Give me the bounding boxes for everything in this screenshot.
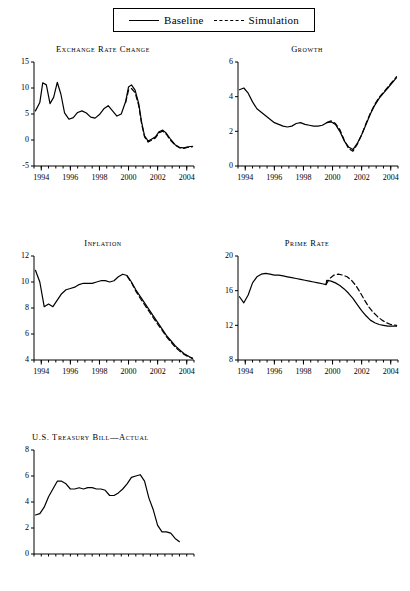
svg-text:16: 16 <box>225 286 233 295</box>
svg-text:2000: 2000 <box>325 173 341 182</box>
svg-text:0: 0 <box>25 135 29 144</box>
svg-text:5: 5 <box>25 109 29 118</box>
svg-text:1998: 1998 <box>91 173 107 182</box>
svg-text:6: 6 <box>25 329 29 338</box>
plot-us-treasury-bill-actual: 02468 <box>8 446 198 578</box>
svg-text:2004: 2004 <box>383 367 399 376</box>
svg-text:2004: 2004 <box>383 173 399 182</box>
svg-text:8: 8 <box>229 355 233 364</box>
panel-title-exchange-rate-change: Exchange Rate Change <box>8 44 198 54</box>
plot-inflation: 4681012199419961998200020022004 <box>8 252 198 384</box>
plot-prime-rate: 8121620199419961998200020022004 <box>212 252 402 384</box>
legend: Baseline Simulation <box>113 8 315 32</box>
panel-growth: Growth 0246199419961998200020022004 <box>212 44 402 194</box>
svg-text:6: 6 <box>229 57 233 66</box>
panel-exchange-rate-change: Exchange Rate Change -505101519941996199… <box>8 44 198 194</box>
svg-text:0: 0 <box>25 549 29 558</box>
panel-title-growth: Growth <box>212 44 402 54</box>
svg-text:12: 12 <box>21 251 29 260</box>
svg-text:8: 8 <box>25 303 29 312</box>
panel-title-inflation: Inflation <box>8 238 198 248</box>
svg-text:2004: 2004 <box>179 367 195 376</box>
svg-text:20: 20 <box>225 251 233 260</box>
panel-inflation: Inflation 468101219941996199820002002200… <box>8 238 198 388</box>
svg-text:4: 4 <box>229 92 233 101</box>
panel-us-treasury-bill-actual: U.S. Treasury Bill—Actual 02468 <box>8 432 198 591</box>
svg-text:1998: 1998 <box>295 173 311 182</box>
legend-entry-simulation: Simulation <box>214 14 299 26</box>
legend-swatch-solid <box>129 20 159 21</box>
figure-root: Baseline Simulation Exchange Rate Change… <box>0 0 410 591</box>
legend-label-simulation: Simulation <box>249 14 299 26</box>
svg-text:1998: 1998 <box>91 367 107 376</box>
svg-text:1996: 1996 <box>62 173 78 182</box>
svg-text:2004: 2004 <box>179 173 195 182</box>
panel-title-prime-rate: Prime Rate <box>212 238 402 248</box>
svg-text:10: 10 <box>21 83 29 92</box>
svg-text:-5: -5 <box>22 161 29 170</box>
svg-text:1994: 1994 <box>33 173 49 182</box>
svg-text:2002: 2002 <box>150 173 166 182</box>
legend-swatch-dashed <box>214 20 244 21</box>
svg-text:12: 12 <box>225 321 233 330</box>
svg-text:6: 6 <box>25 471 29 480</box>
svg-text:2: 2 <box>229 127 233 136</box>
svg-text:4: 4 <box>25 497 29 506</box>
svg-text:2002: 2002 <box>150 367 166 376</box>
svg-text:1996: 1996 <box>62 367 78 376</box>
svg-text:2002: 2002 <box>354 367 370 376</box>
svg-text:2: 2 <box>25 523 29 532</box>
svg-text:2000: 2000 <box>121 367 137 376</box>
svg-text:1996: 1996 <box>266 173 282 182</box>
svg-text:8: 8 <box>25 445 29 454</box>
svg-text:1994: 1994 <box>33 367 49 376</box>
svg-text:1996: 1996 <box>266 367 282 376</box>
plot-exchange-rate-change: -5051015199419961998200020022004 <box>8 58 198 190</box>
svg-text:1998: 1998 <box>295 367 311 376</box>
svg-text:4: 4 <box>25 355 29 364</box>
svg-text:0: 0 <box>229 161 233 170</box>
panel-prime-rate: Prime Rate 81216201994199619982000200220… <box>212 238 402 388</box>
legend-entry-baseline: Baseline <box>129 14 203 26</box>
legend-label-baseline: Baseline <box>164 14 203 26</box>
svg-text:2000: 2000 <box>325 367 341 376</box>
svg-text:1994: 1994 <box>237 173 253 182</box>
svg-text:2000: 2000 <box>121 173 137 182</box>
svg-text:10: 10 <box>21 277 29 286</box>
plot-growth: 0246199419961998200020022004 <box>212 58 402 190</box>
svg-text:2002: 2002 <box>354 173 370 182</box>
svg-text:1994: 1994 <box>237 367 253 376</box>
svg-text:15: 15 <box>21 57 29 66</box>
panel-title-us-treasury-bill-actual: U.S. Treasury Bill—Actual <box>8 432 222 442</box>
